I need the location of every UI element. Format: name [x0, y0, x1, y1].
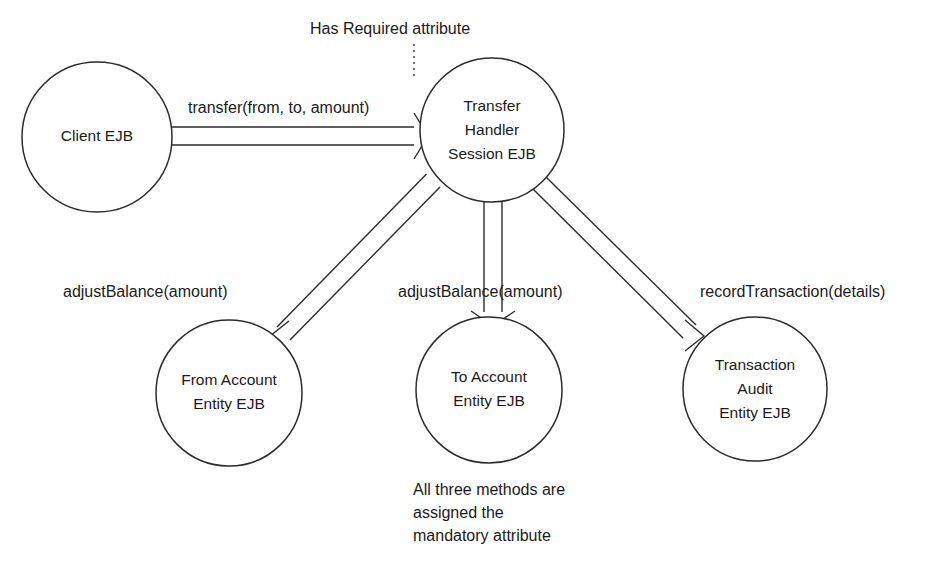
- edge-line-lower: [290, 187, 440, 340]
- node-from-account-entity-ejb[interactable]: From Account Entity EJB: [156, 320, 302, 466]
- edge-client-to-transfer-handler[interactable]: [172, 113, 428, 159]
- edge-line-lower: [533, 189, 683, 338]
- edge-label-adjust-balance-from: adjustBalance(amount): [63, 283, 228, 300]
- annotation-mandatory-attribute: All three methods are assigned the manda…: [413, 481, 565, 544]
- node-transaction-audit-entity-ejb[interactable]: Transaction Audit Entity EJB: [683, 317, 827, 461]
- node-label-line-3: Entity EJB: [719, 404, 791, 421]
- node-label-line-1: Transfer: [463, 97, 520, 114]
- node-circle: [156, 320, 302, 466]
- edge-transfer-handler-to-transaction-audit[interactable]: [533, 176, 704, 351]
- edge-transfer-handler-to-to-account[interactable]: [471, 202, 515, 326]
- node-circle: [416, 317, 562, 463]
- annotation-line-2: assigned the: [413, 504, 504, 521]
- node-label-line-2: Entity EJB: [453, 392, 525, 409]
- node-transfer-handler-session-ejb[interactable]: Transfer Handler Session EJB: [420, 58, 564, 202]
- node-label-line-1: Transaction: [715, 356, 795, 373]
- diagram-canvas: Client EJB Transfer Handler Session EJB …: [0, 0, 940, 570]
- node-label-line-3: Session EJB: [448, 145, 536, 162]
- edge-line-upper: [545, 176, 696, 325]
- node-label-line-1: To Account: [451, 368, 528, 385]
- node-label-line-2: Entity EJB: [193, 395, 265, 412]
- annotation-has-required-attribute: Has Required attribute: [310, 20, 470, 37]
- node-label-line-2: Audit: [737, 380, 773, 397]
- edge-line-upper: [277, 174, 427, 327]
- edge-label-adjust-balance-to: adjustBalance(amount): [398, 283, 563, 300]
- edge-label-transfer: transfer(from, to, amount): [188, 99, 369, 116]
- node-label-line-1: From Account: [181, 371, 277, 388]
- edge-transfer-handler-to-from-account[interactable]: [270, 174, 440, 353]
- node-label-line-2: Handler: [465, 121, 519, 138]
- node-label-line-1: Client EJB: [61, 127, 133, 144]
- node-to-account-entity-ejb[interactable]: To Account Entity EJB: [416, 317, 562, 463]
- annotation-line-3: mandatory attribute: [413, 527, 551, 544]
- annotation-line-1: All three methods are: [413, 481, 565, 498]
- ejb-transaction-diagram: Client EJB Transfer Handler Session EJB …: [0, 0, 940, 570]
- node-client-ejb[interactable]: Client EJB: [22, 62, 172, 212]
- edge-label-record-transaction: recordTransaction(details): [700, 283, 885, 300]
